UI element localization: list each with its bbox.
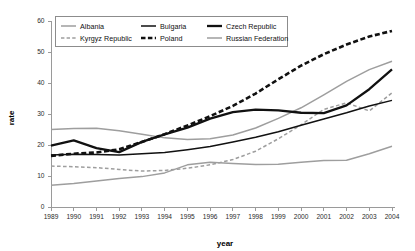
y-tick-label: 60 [37, 17, 45, 24]
x-tick-label: 2001 [316, 213, 331, 220]
y-tick-label: 50 [37, 48, 45, 55]
chart-legend: AlbaniaBulgariaCzech RepublicKyrgyz Repu… [55, 16, 288, 46]
x-tick-label: 2004 [385, 213, 400, 220]
legend-label-bulgaria: Bulgaria [160, 22, 186, 31]
y-axis: 0102030405060 [37, 17, 51, 210]
y-tick-label: 10 [37, 172, 45, 179]
series-line-russian-federation [51, 146, 392, 185]
x-tick-label: 1994 [157, 213, 172, 220]
series-line-bulgaria [51, 100, 392, 155]
x-tick-label: 1992 [112, 213, 127, 220]
line-chart: 0102030405060 19891990199119921993199419… [0, 0, 415, 251]
x-tick-label: 1999 [271, 213, 286, 220]
x-tick-label: 1997 [226, 213, 241, 220]
legend-label-russian-federation: Russian Federation [226, 34, 288, 43]
legend-label-czech-republic: Czech Republic [226, 22, 277, 31]
legend-label-poland: Poland [160, 34, 182, 43]
x-tick-label: 1993 [135, 213, 150, 220]
x-axis-title: year [217, 239, 233, 248]
x-tick-label: 1989 [44, 213, 59, 220]
legend-label-kyrgyz-republic: Kyrgyz Republic [80, 34, 132, 43]
x-tick-label: 2003 [362, 213, 377, 220]
x-tick-label: 1990 [66, 213, 81, 220]
x-tick-label: 1998 [248, 213, 263, 220]
y-tick-label: 40 [37, 79, 45, 86]
legend-label-albania: Albania [80, 22, 104, 31]
x-tick-label: 2002 [339, 213, 354, 220]
x-tick-label: 2000 [294, 213, 309, 220]
x-tick-label: 1995 [180, 213, 195, 220]
series-line-albania [51, 61, 392, 139]
y-axis-title: rate [7, 110, 16, 125]
y-tick-label: 30 [37, 110, 45, 117]
chart-canvas: 0102030405060 19891990199119921993199419… [0, 0, 415, 251]
y-tick-label: 20 [37, 141, 45, 148]
series-line-kyrgyz-republic [51, 93, 392, 171]
x-axis: 1989199019911992199319941995199619971998… [44, 207, 400, 220]
x-tick-label: 1996 [203, 213, 218, 220]
y-tick-label: 0 [41, 203, 45, 210]
x-tick-label: 1991 [89, 213, 104, 220]
series-layer [51, 31, 392, 185]
